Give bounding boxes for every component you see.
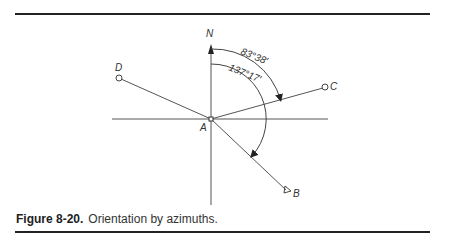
- line-to-d: [121, 79, 211, 119]
- line-to-b: [211, 119, 286, 190]
- azimuth-diagram: N A C D B 83°38′ 137°17′: [0, 0, 451, 237]
- bottom-rule: [15, 231, 430, 233]
- angle-label-83: 83°38′: [239, 46, 270, 67]
- figure-caption: Figure 8-20.Orientation by azimuths.: [16, 212, 218, 226]
- line-to-c: [211, 88, 323, 119]
- point-c-marker: [322, 84, 328, 90]
- figure-caption-text: Orientation by azimuths.: [88, 212, 217, 226]
- north-label: N: [206, 28, 214, 39]
- point-d-marker: [116, 75, 122, 81]
- point-c-label: C: [330, 81, 338, 92]
- figure-number: Figure 8-20.: [16, 212, 83, 226]
- origin-label: A: [199, 122, 207, 133]
- point-b-label: B: [293, 188, 300, 199]
- origin-marker: [209, 117, 213, 121]
- point-d-label: D: [115, 62, 122, 73]
